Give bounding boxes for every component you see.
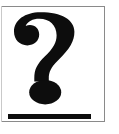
question-mark-icon: [10, 9, 88, 109]
underline-bar: [8, 114, 91, 119]
placeholder-image-canvas: ?: [0, 0, 119, 134]
question-mark-dot: [29, 80, 61, 104]
question-mark-glyph-area: [0, 0, 119, 134]
